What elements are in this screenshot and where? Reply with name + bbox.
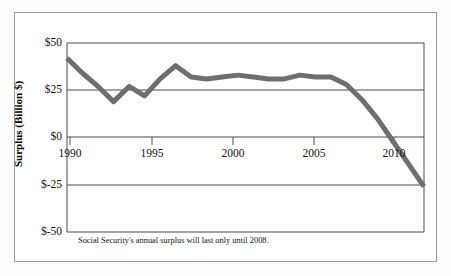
figure-container: $50 $25 $0 $-25 $-50 1990 1995 2000 2005… [0,0,451,276]
xtick-label-4: 2010 [370,147,418,159]
data-line-annual-surplus [67,58,424,187]
chart-plot [0,0,451,276]
gridlines [67,43,424,232]
xtick-label-3: 2005 [290,147,338,159]
ytick-label-3: $-25 [18,178,62,190]
ytick-label-4: $-50 [18,225,62,237]
ytick-label-0: $50 [22,36,62,48]
xtick-label-1: 1995 [128,147,176,159]
xtick-label-2: 2000 [209,147,257,159]
y-axis-title: Surplus (Billion $) [12,64,24,184]
ytick-label-2: $0 [22,130,62,142]
ytick-label-1: $25 [22,83,62,95]
chart-caption: Social Security's annual surplus will la… [78,236,269,245]
chart-area: $50 $25 $0 $-25 $-50 1990 1995 2000 2005… [0,0,451,276]
xtick-label-0: 1990 [46,147,94,159]
x-tick-marks [70,137,394,145]
